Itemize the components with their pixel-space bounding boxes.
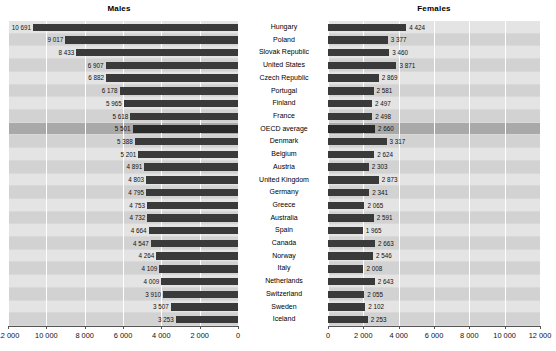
category-label: United States bbox=[240, 59, 328, 71]
x-tick-female bbox=[505, 326, 506, 329]
category-label: Switzerland bbox=[240, 288, 328, 300]
value-label-female: 2 869 bbox=[382, 74, 398, 81]
bar-male bbox=[156, 252, 238, 259]
x-tick-female bbox=[469, 326, 470, 329]
category-label: Poland bbox=[240, 34, 328, 46]
x-tick-male bbox=[8, 326, 9, 329]
bar-female bbox=[328, 202, 364, 209]
category-label: Australia bbox=[240, 212, 328, 224]
value-label-male: 4 009 bbox=[0, 278, 159, 285]
plot-area-females bbox=[328, 21, 540, 326]
value-label-female: 2 546 bbox=[376, 252, 392, 259]
gridline bbox=[469, 21, 470, 326]
value-label-female: 3 871 bbox=[399, 62, 415, 69]
category-label: United Kingdom bbox=[240, 174, 328, 186]
x-tick-male bbox=[46, 326, 47, 329]
value-label-male: 5 388 bbox=[0, 138, 133, 145]
value-label-female: 2 303 bbox=[372, 163, 388, 170]
category-label: Norway bbox=[240, 250, 328, 262]
category-label: Spain bbox=[240, 224, 328, 236]
value-label-female: 1 965 bbox=[366, 227, 382, 234]
category-label: Czech Republic bbox=[240, 72, 328, 84]
bar-male bbox=[76, 49, 238, 56]
category-label: Portugal bbox=[240, 85, 328, 97]
category-label: Denmark bbox=[240, 135, 328, 147]
bar-male bbox=[146, 176, 238, 183]
value-label-male: 6 882 bbox=[0, 74, 104, 81]
category-label: Belgium bbox=[240, 148, 328, 160]
x-tick-female bbox=[328, 326, 329, 329]
bar-male bbox=[159, 265, 238, 272]
value-label-female: 2 873 bbox=[382, 176, 398, 183]
bar-male bbox=[147, 214, 238, 221]
value-label-female: 3 377 bbox=[391, 36, 407, 43]
value-label-female: 2 498 bbox=[375, 113, 391, 120]
x-tick-male bbox=[123, 326, 124, 329]
value-label-male: 5 618 bbox=[0, 113, 128, 120]
bar-male bbox=[135, 138, 238, 145]
bar-female bbox=[328, 265, 363, 272]
category-label: OECD average bbox=[240, 123, 328, 135]
value-label-female: 2 663 bbox=[378, 240, 394, 247]
bar-male bbox=[149, 227, 238, 234]
value-label-male: 5 965 bbox=[0, 100, 122, 107]
value-label-male: 4 803 bbox=[0, 176, 144, 183]
value-label-male: 10 691 bbox=[0, 24, 31, 31]
chart-title-cropped bbox=[0, 0, 548, 3]
value-label-male: 4 891 bbox=[0, 163, 142, 170]
x-tick-male bbox=[161, 326, 162, 329]
value-label-female: 2 624 bbox=[377, 151, 393, 158]
x-tick-male bbox=[200, 326, 201, 329]
value-label-female: 3 460 bbox=[392, 49, 408, 56]
value-label-male: 4 732 bbox=[0, 214, 145, 221]
category-label: Netherlands bbox=[240, 275, 328, 287]
bar-female bbox=[328, 214, 374, 221]
bar-female bbox=[328, 291, 364, 298]
value-label-female: 2 008 bbox=[366, 265, 382, 272]
value-label-male: 3 910 bbox=[0, 291, 161, 298]
bar-male bbox=[138, 151, 238, 158]
x-tick-female bbox=[399, 326, 400, 329]
value-label-male: 5 201 bbox=[0, 151, 136, 158]
bar-female bbox=[328, 189, 369, 196]
bar-male bbox=[33, 24, 238, 31]
category-label: Italy bbox=[240, 262, 328, 274]
gridline bbox=[238, 21, 239, 326]
category-label: Sweden bbox=[240, 301, 328, 313]
gridline bbox=[540, 21, 541, 326]
value-label-female: 3 317 bbox=[390, 138, 406, 145]
x-tick-female bbox=[363, 326, 364, 329]
value-label-female: 2 253 bbox=[371, 316, 387, 323]
x-tick-female bbox=[540, 326, 541, 329]
x-tick-female bbox=[434, 326, 435, 329]
bar-female bbox=[328, 303, 365, 310]
value-label-male: 4 264 bbox=[0, 252, 154, 259]
value-label-female: 2 341 bbox=[372, 189, 388, 196]
bar-male bbox=[163, 291, 238, 298]
bar-female bbox=[328, 151, 374, 158]
value-label-female: 2 055 bbox=[367, 291, 383, 298]
bar-male bbox=[130, 113, 238, 120]
x-tick-male bbox=[85, 326, 86, 329]
category-label: Finland bbox=[240, 97, 328, 109]
x-tick-label-male: 12 000 bbox=[0, 331, 30, 340]
bar-male bbox=[133, 125, 238, 132]
bar-male bbox=[144, 163, 238, 170]
bar-male bbox=[106, 74, 238, 81]
value-label-male: 4 547 bbox=[0, 240, 149, 247]
bar-male bbox=[147, 202, 238, 209]
x-tick-label-male: 2 000 bbox=[178, 331, 222, 340]
bar-female bbox=[328, 176, 379, 183]
value-label-male: 4 753 bbox=[0, 202, 145, 209]
x-tick-label-male: 8 000 bbox=[63, 331, 107, 340]
x-tick-label-male: 10 000 bbox=[24, 331, 68, 340]
bar-female bbox=[328, 252, 373, 259]
bar-female bbox=[328, 100, 372, 107]
bar-female bbox=[328, 62, 396, 69]
gridline bbox=[505, 21, 506, 326]
bar-male bbox=[151, 240, 238, 247]
bar-female bbox=[328, 125, 375, 132]
value-label-male: 9 017 bbox=[0, 36, 63, 43]
bar-male bbox=[65, 36, 238, 43]
value-label-male: 3 253 bbox=[0, 316, 174, 323]
